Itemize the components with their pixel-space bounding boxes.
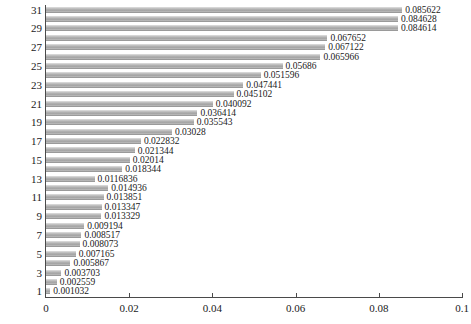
plot-area: 0.0856220.0846280.0846140.0676520.067122…	[46, 6, 462, 297]
bar[interactable]	[46, 241, 80, 247]
y-tick-label: 3	[2, 268, 42, 279]
bar[interactable]	[46, 279, 57, 285]
y-tick-label: 25	[2, 61, 42, 72]
bar[interactable]	[46, 101, 213, 107]
bar-value-label: 0.001032	[53, 286, 89, 296]
y-tick-label: 13	[2, 174, 42, 185]
x-tick-mark	[379, 293, 380, 298]
bar-value-label: 0.084614	[401, 23, 437, 33]
y-tick-label: 5	[2, 249, 42, 260]
y-tick-label: 15	[2, 155, 42, 166]
bar-value-label: 0.065966	[323, 52, 359, 62]
bar[interactable]	[46, 147, 135, 153]
y-tick-label: 9	[2, 211, 42, 222]
bar[interactable]	[46, 91, 234, 97]
bar[interactable]	[46, 110, 197, 116]
bar-row: 0.003703	[46, 269, 462, 278]
bar-row: 0.065966	[46, 53, 462, 62]
bar-row: 0.035543	[46, 119, 462, 128]
x-tick-label: 0.02	[120, 302, 139, 314]
bar-row: 0.03028	[46, 128, 462, 137]
x-tick-mark	[296, 293, 297, 298]
y-axis-tick-labels: 312927252321191715131197531	[0, 0, 42, 324]
bar[interactable]	[46, 129, 172, 135]
x-tick-label: 0.06	[286, 302, 305, 314]
bar-row: 0.001032	[46, 288, 462, 297]
bar-row: 0.002559	[46, 278, 462, 287]
bar-chart: 312927252321191715131197531 0.0856220.08…	[0, 0, 471, 324]
bar-row: 0.021344	[46, 147, 462, 156]
y-tick-label: 23	[2, 80, 42, 91]
y-tick-label: 21	[2, 99, 42, 110]
y-tick-label: 11	[2, 192, 42, 203]
bar-row: 0.005867	[46, 259, 462, 268]
bar[interactable]	[46, 270, 61, 276]
bar[interactable]	[46, 44, 325, 50]
bar[interactable]	[46, 232, 81, 238]
x-tick-label: 0.04	[203, 302, 222, 314]
bar[interactable]	[46, 35, 327, 41]
bar-row: 0.0116836	[46, 175, 462, 184]
x-tick-label: 0.1	[455, 302, 469, 314]
bar[interactable]	[46, 119, 194, 125]
bar-row: 0.022832	[46, 137, 462, 146]
bar-row: 0.067652	[46, 34, 462, 43]
x-tick-label: 0	[43, 302, 49, 314]
bar[interactable]	[46, 25, 398, 31]
bar[interactable]	[46, 54, 320, 60]
bar-row: 0.045102	[46, 90, 462, 99]
bar-row: 0.040092	[46, 100, 462, 109]
bar[interactable]	[46, 7, 402, 13]
y-tick-label: 1	[2, 286, 42, 297]
bar[interactable]	[46, 176, 95, 182]
bar-row: 0.036414	[46, 109, 462, 118]
y-tick-label: 7	[2, 230, 42, 241]
bar[interactable]	[46, 157, 130, 163]
y-tick-label: 19	[2, 117, 42, 128]
bar[interactable]	[46, 16, 398, 22]
x-tick-mark	[129, 293, 130, 298]
x-axis-line	[45, 297, 462, 298]
bar[interactable]	[46, 213, 101, 219]
bar-row: 0.02014	[46, 156, 462, 165]
bar-row: 0.067122	[46, 44, 462, 53]
bar-row: 0.05686	[46, 62, 462, 71]
bar-row: 0.085622	[46, 6, 462, 15]
bar[interactable]	[46, 288, 50, 294]
bar-row: 0.084614	[46, 25, 462, 34]
y-tick-label: 29	[2, 23, 42, 34]
bar-row: 0.084628	[46, 15, 462, 24]
bar[interactable]	[46, 138, 141, 144]
x-tick-label: 0.08	[369, 302, 388, 314]
bar[interactable]	[46, 72, 261, 78]
x-tick-mark	[462, 293, 463, 298]
y-tick-label: 17	[2, 136, 42, 147]
bar[interactable]	[46, 185, 108, 191]
bar[interactable]	[46, 82, 243, 88]
bar[interactable]	[46, 63, 283, 69]
bar[interactable]	[46, 204, 102, 210]
bar[interactable]	[46, 260, 70, 266]
y-tick-label: 31	[2, 5, 42, 16]
x-tick-mark	[212, 293, 213, 298]
bar[interactable]	[46, 194, 104, 200]
bar[interactable]	[46, 166, 122, 172]
y-tick-label: 27	[2, 42, 42, 53]
bar[interactable]	[46, 251, 76, 257]
bar[interactable]	[46, 223, 84, 229]
